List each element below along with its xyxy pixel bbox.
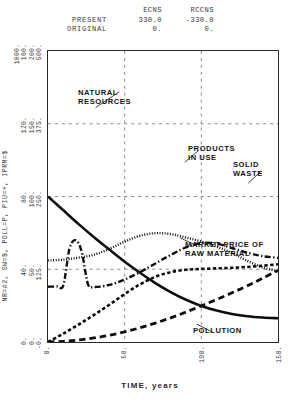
x-axis-title: TIME, years — [0, 381, 300, 390]
series-line — [48, 270, 278, 342]
table-header-row: ECNS RCCNS — [55, 6, 220, 16]
x-axis-tick-label: 100. — [199, 346, 206, 363]
series-line — [48, 264, 278, 342]
cell-original-rccns: 0. — [168, 25, 220, 35]
summary-table: ECNS RCCNS PRESENT 330.0 -330.0 ORIGINAL… — [0, 6, 300, 35]
y-axis-tick-label: -0. — [37, 337, 44, 349]
y-axis-tick-label: 100. — [30, 191, 37, 207]
cell-present-ecns: 330.0 — [116, 16, 168, 26]
column-header-rccns: RCCNS — [168, 6, 220, 16]
curve-label: PRODUCTS IN USE — [188, 144, 235, 162]
y-axis-tick-label: 80. — [22, 191, 29, 203]
y-axis-tick-label: 375. — [37, 117, 44, 133]
summary-table-grid: ECNS RCCNS PRESENT 330.0 -330.0 ORIGINAL… — [55, 6, 220, 35]
table-row: PRESENT 330.0 -330.0 — [55, 16, 220, 26]
curve-label: NATURAL RESOURCES — [78, 88, 131, 106]
cell-present-rccns: -330.0 — [168, 16, 220, 26]
y-axis-tick-group: 500.200.160.1000. — [0, 44, 46, 56]
table-row: ORIGINAL 0. 0. — [55, 25, 220, 35]
y-axis-tick-label: 150. — [30, 117, 37, 133]
y-axis-tick-label: 0. — [22, 337, 29, 345]
y-axis-tick-label: 0. — [30, 337, 37, 345]
curve-label: MARKET PRICE OF RAW MATERIAL — [185, 240, 264, 258]
y-axis-tick-label: 160. — [22, 44, 29, 60]
y-axis-title: NR=#2, SW=$, POLL=P, PIU=+, IPRM=$ — [2, 150, 9, 302]
row-label-original: ORIGINAL — [55, 25, 116, 35]
row-label-present: PRESENT — [55, 16, 116, 26]
y-axis-tick-group: 375.150.120. — [0, 117, 46, 129]
y-axis-tick-label: 250. — [37, 191, 44, 207]
y-axis-tick-label: 125. — [37, 264, 44, 280]
x-axis-tick-label: 50. — [121, 346, 128, 359]
y-axis-tick-label: 50. — [30, 264, 37, 276]
column-header-ecns: ECNS — [116, 6, 168, 16]
x-axis-tick-label: 150. — [276, 346, 283, 363]
y-axis-tick-label: 40. — [22, 264, 29, 276]
y-axis-tick-label: 1000. — [15, 44, 22, 64]
y-axis-tick-label: 500. — [37, 44, 44, 60]
cell-original-ecns: 0. — [116, 25, 168, 35]
curve-label: SOLID WASTE — [233, 160, 263, 178]
y-axis-tick-group: -0.0.0. — [0, 337, 46, 349]
curve-label: POLLUTION — [193, 326, 242, 335]
y-axis-tick-label: 120. — [22, 117, 29, 133]
table-corner-cell — [55, 6, 116, 16]
x-axis-tick-label: 0. — [44, 346, 51, 355]
y-axis-tick-label: 200. — [30, 44, 37, 60]
